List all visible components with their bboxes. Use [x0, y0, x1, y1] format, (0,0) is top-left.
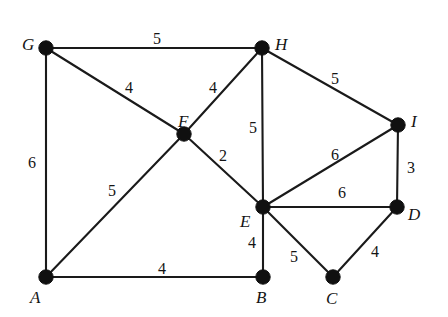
graph-node-c [326, 270, 340, 284]
edge-weight-c-d: 4 [371, 244, 379, 260]
graph-edge-f-a [46, 134, 184, 277]
graph-edge-c-d [333, 207, 397, 277]
node-label-h: H [275, 36, 287, 53]
graph-edge-h-e [262, 48, 263, 207]
node-label-a: A [30, 289, 40, 306]
edge-weight-g-f: 4 [125, 80, 133, 96]
node-label-i: I [411, 113, 417, 130]
graph-edge-i-d [397, 125, 398, 207]
edge-weight-e-c: 5 [290, 249, 298, 265]
node-label-f: F [178, 113, 188, 130]
edge-weight-b-e: 4 [248, 235, 256, 251]
edge-weight-f-a: 5 [108, 183, 116, 199]
graph-node-g [39, 41, 53, 55]
node-label-d: D [408, 206, 420, 223]
weighted-graph-figure: 546455254466543ABCDEFGHI [0, 0, 448, 317]
node-label-c: C [326, 290, 337, 307]
graph-node-e [256, 200, 270, 214]
node-label-b: B [256, 289, 266, 306]
graph-node-d [390, 200, 404, 214]
node-label-g: G [22, 36, 34, 53]
edge-weight-h-i: 5 [331, 71, 339, 87]
edge-weight-h-e: 5 [249, 120, 257, 136]
edge-weight-h-f: 4 [209, 80, 217, 96]
edge-weight-f-e: 2 [219, 148, 227, 164]
graph-edge-e-i [263, 125, 398, 207]
edge-weight-g-a: 6 [28, 155, 36, 171]
edge-weight-i-d: 3 [407, 160, 415, 176]
graph-node-b [256, 270, 270, 284]
edge-weight-a-b: 4 [158, 261, 166, 277]
edge-weight-e-i: 6 [331, 147, 339, 163]
graph-node-a [39, 270, 53, 284]
graph-node-i [391, 118, 405, 132]
edge-weight-g-h: 5 [153, 31, 161, 47]
graph-edge-g-f [46, 48, 184, 134]
edge-weight-e-d: 6 [338, 185, 346, 201]
graph-edge-f-e [184, 134, 263, 207]
node-label-e: E [240, 213, 250, 230]
graph-edge-h-i [262, 48, 398, 125]
graph-edge-e-c [263, 207, 333, 277]
graph-node-h [255, 41, 269, 55]
